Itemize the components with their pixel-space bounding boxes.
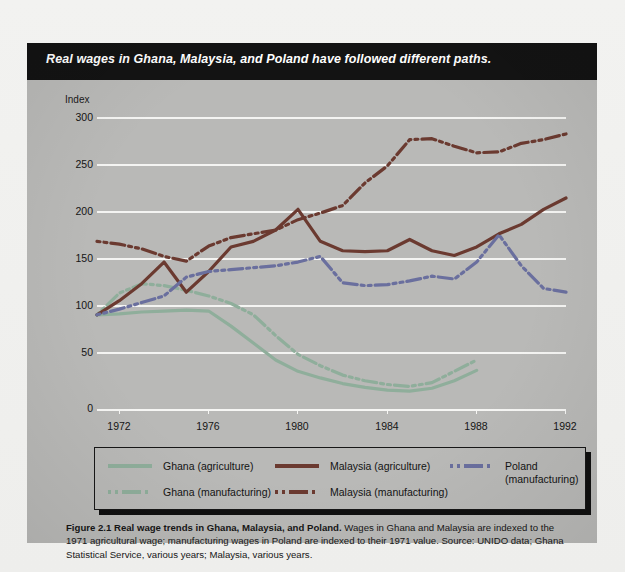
- xtick-1980: [297, 409, 298, 414]
- legend-label-ghana-manufacturing: Ghana (manufacturing): [163, 486, 271, 499]
- legend-swatch-malaysia-agriculture: [275, 463, 319, 469]
- xtick-1984: [387, 409, 388, 414]
- legend-label-poland-manufacturing: Poland (manufacturing): [505, 460, 579, 485]
- xtick-label-1992: 1992: [545, 420, 585, 432]
- title-banner: Real wages in Ghana, Malaysia, and Polan…: [27, 43, 597, 80]
- series-line-ghana-agriculture: [97, 310, 477, 391]
- ytick-label-250: 250: [59, 158, 93, 170]
- legend-swatch-ghana-agriculture: [108, 463, 152, 469]
- y-axis-title: Index: [65, 94, 89, 105]
- legend-swatch-ghana-manufacturing: [108, 489, 152, 495]
- caption-figure-label: Figure 2.1 Real wage trends in Ghana, Ma…: [66, 522, 342, 533]
- plot-container: Index 300 250 200 150 100 50 0: [27, 80, 597, 543]
- figure-card: Real wages in Ghana, Malaysia, and Polan…: [27, 43, 597, 543]
- xtick-1992: [565, 409, 566, 414]
- xtick-label-1984: 1984: [367, 420, 407, 432]
- xtick-1976: [208, 409, 209, 414]
- xtick-1988: [476, 409, 477, 414]
- ytick-label-150: 150: [59, 252, 93, 264]
- ytick-label-300: 300: [59, 111, 93, 123]
- legend-label-malaysia-agriculture: Malaysia (agriculture): [330, 460, 430, 473]
- figure-caption: Figure 2.1 Real wage trends in Ghana, Ma…: [66, 521, 566, 561]
- legend-swatch-malaysia-manufacturing: [275, 489, 319, 495]
- series-layer: [97, 117, 566, 409]
- plot-area: [97, 117, 566, 409]
- legend-label-malaysia-manufacturing: Malaysia (manufacturing): [330, 486, 448, 499]
- ytick-label-50: 50: [59, 346, 93, 358]
- ytick-label-0: 0: [59, 402, 93, 414]
- series-line-malaysia-manufacturing: [97, 134, 566, 261]
- legend-swatch-poland-manufacturing: [450, 463, 494, 469]
- figure-page: Real wages in Ghana, Malaysia, and Polan…: [0, 0, 625, 572]
- x-axis-line: [97, 409, 566, 411]
- xtick-1972: [119, 409, 120, 414]
- xtick-label-1976: 1976: [188, 420, 228, 432]
- ytick-label-100: 100: [59, 299, 93, 311]
- xtick-label-1972: 1972: [99, 420, 139, 432]
- xtick-label-1980: 1980: [277, 420, 317, 432]
- ytick-label-200: 200: [59, 205, 93, 217]
- legend-label-ghana-agriculture: Ghana (agriculture): [163, 460, 253, 473]
- chart-legend: Ghana (agriculture) Ghana (manufacturing…: [94, 447, 586, 510]
- banner-title: Real wages in Ghana, Malaysia, and Polan…: [46, 52, 491, 66]
- xtick-label-1988: 1988: [456, 420, 496, 432]
